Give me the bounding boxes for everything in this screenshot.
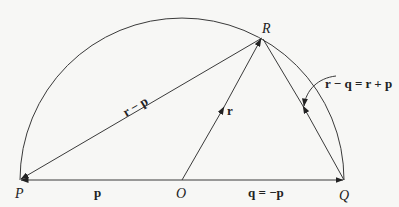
vector-r-minus-q-upper [263,39,303,106]
point-label-o: O [176,186,186,201]
vector-label-r: r [227,103,233,118]
vector-r-minus-q-lower [303,106,344,180]
vector-label-p: p [94,185,101,200]
vector-r-lower [182,107,224,180]
vector-label-r-minus-p: r − p [120,93,151,119]
point-label-q: Q [339,188,349,203]
vector-label-r-minus-q: r − q = r + p [325,76,392,91]
vector-label-q: q = −p [248,185,284,200]
semicircle-vector-diagram: P O Q R p q = −p r r − p r − q = r + p [0,0,399,207]
point-label-r: R [261,21,271,36]
point-label-p: P [14,186,24,201]
semicircle-arc [20,18,344,180]
